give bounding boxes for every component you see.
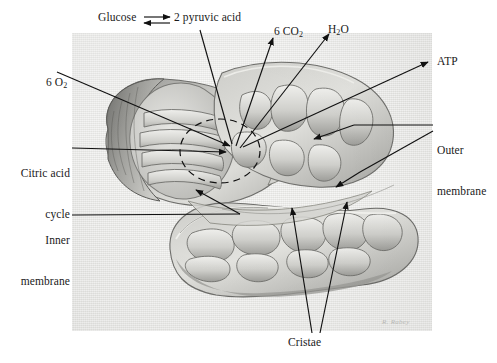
leader-inner-membrane — [72, 214, 240, 215]
label-inner-membrane-line2: membrane — [0, 275, 70, 289]
label-outer-membrane: Outer membrane — [437, 117, 486, 225]
label-o2: 6 O2 — [34, 62, 67, 104]
label-co2: 6 CO2 — [262, 11, 303, 53]
leader-citric-acid-cycle — [72, 148, 226, 152]
label-citric-acid-cycle-line1: Citric acid — [8, 167, 70, 181]
label-atp: ATP — [437, 55, 458, 69]
label-inner-membrane: Inner membrane — [0, 207, 70, 315]
label-cristae: Cristae — [288, 336, 321, 350]
artist-signature: R. Rabey — [382, 318, 410, 326]
label-h2o: H2O — [316, 9, 349, 51]
equilibrium-double-arrow — [144, 17, 170, 23]
label-co2-text: 6 CO — [274, 25, 299, 37]
label-outer-membrane-line2: membrane — [437, 185, 486, 199]
leader-o2 — [57, 72, 230, 146]
label-co2-subscript: 2 — [299, 30, 303, 39]
label-outer-membrane-line1: Outer — [437, 144, 486, 158]
label-h2o-tail: O — [340, 23, 348, 35]
leader-pyruvic-acid — [200, 30, 232, 144]
leader-outer-membrane — [314, 125, 433, 187]
label-pyruvic-acid: 2 pyruvic acid — [174, 11, 241, 25]
label-o2-text: 6 O — [46, 76, 63, 88]
label-inner-membrane-line1: Inner — [0, 234, 70, 248]
leader-cristae — [292, 202, 347, 333]
leader-inner-membrane-hook — [196, 190, 240, 214]
label-o2-subscript: 2 — [63, 81, 67, 90]
label-glucose: Glucose — [98, 11, 136, 25]
mitochondria-respiration-figure: Glucose 2 pyruvic acid 6 CO2 H2O 6 O2 AT… — [0, 0, 497, 363]
leader-atp — [243, 62, 428, 147]
leader-lines-layer — [0, 0, 497, 363]
label-h2o-subscript: 2 — [336, 28, 340, 37]
